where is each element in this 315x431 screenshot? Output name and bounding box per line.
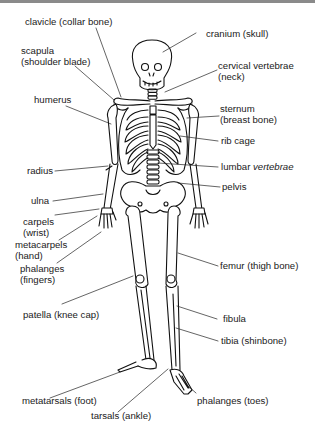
label-cranium: cranium (skull) [206, 29, 268, 40]
cervical-spine [148, 89, 157, 99]
label-lumbar-word1: lumbar [221, 161, 253, 172]
label-cervical-vertebrae: cervical vertebrae (neck) [218, 61, 294, 82]
label-rib-cage: rib cage [221, 136, 255, 147]
label-lumbar-word2: vertebrae [253, 161, 294, 172]
sternum [150, 106, 156, 149]
label-tarsals: tarsals (ankle) [91, 411, 151, 422]
label-phalanges-fingers-line1: phalanges [20, 264, 64, 275]
label-metatarsals: metatarsals (foot) [22, 396, 97, 407]
label-scapula: scapula (shoulder blade) [21, 46, 90, 67]
label-cervical-line2: (neck) [218, 72, 294, 83]
label-sternum: sternum (breast bone) [220, 104, 277, 125]
label-phalanges-fingers-line2: (fingers) [20, 275, 64, 286]
tibia-fibula-left [136, 286, 154, 360]
label-lumbar-vertebrae: lumbar vertebrae [221, 162, 294, 173]
label-cervical-line1: cervical vertebrae [218, 61, 294, 72]
patella-right [167, 275, 175, 283]
foot-left [118, 358, 156, 372]
humerus-left [107, 104, 118, 165]
label-scapula-line1: scapula [21, 46, 90, 57]
humerus-right [188, 104, 199, 165]
label-phalanges-toes: phalanges (toes) [197, 396, 268, 407]
patella-left [136, 275, 144, 283]
label-radius: radius [27, 166, 53, 177]
label-tibia: tibia (shinbone) [221, 336, 287, 347]
hand-left [99, 208, 116, 228]
label-clavicle: clavicle (collar bone) [25, 17, 112, 28]
label-fibula: fibula [223, 314, 246, 325]
skull [132, 40, 171, 90]
label-carpels: carpels (wrist) [23, 217, 54, 238]
lumbar-spine [147, 150, 159, 184]
label-femur: femur (thigh bone) [220, 261, 298, 272]
label-patella: patella (knee cap) [23, 310, 99, 321]
label-carpels-line1: carpels [23, 217, 54, 228]
label-sternum-line2: (breast bone) [220, 115, 277, 126]
label-metacarpels: metacarpels (hand) [15, 240, 67, 261]
label-metacarpels-line1: metacarpels [15, 240, 67, 251]
femur-left [126, 206, 148, 287]
hand-right [190, 208, 208, 228]
tibia-fibula-right [166, 286, 180, 370]
label-pelvis: pelvis [222, 182, 247, 193]
label-sternum-line1: sternum [220, 104, 277, 115]
label-scapula-line2: (shoulder blade) [21, 57, 90, 68]
label-ulna: ulna [31, 196, 49, 207]
label-carpels-line2: (wrist) [23, 228, 54, 239]
label-humerus: humerus [34, 95, 71, 106]
label-phalanges-fingers: phalanges (fingers) [20, 264, 64, 285]
foot-right [170, 369, 192, 394]
label-metacarpels-line2: (hand) [15, 251, 67, 262]
